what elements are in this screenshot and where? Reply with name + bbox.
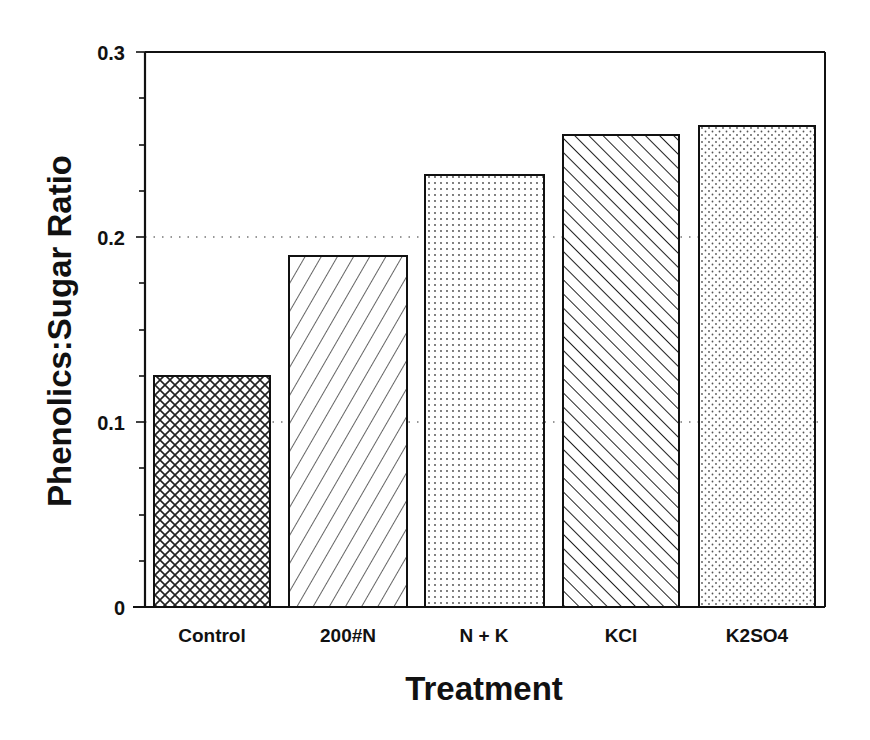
x-label-n-plus-k: N + K xyxy=(459,625,508,646)
y-tick-0-2: 0.2 xyxy=(97,227,125,249)
bar-200n xyxy=(289,256,407,607)
x-label-control: Control xyxy=(178,625,246,646)
x-label-k2so4: K2SO4 xyxy=(726,625,789,646)
bar-control xyxy=(154,376,270,607)
y-tick-labels: 0 0.1 0.2 0.3 xyxy=(97,42,125,619)
y-ticks xyxy=(136,52,145,561)
y-axis-title: Phenolics:Sugar Ratio xyxy=(41,155,78,507)
x-axis-title: Treatment xyxy=(405,670,563,707)
x-label-200n: 200#N xyxy=(320,625,376,646)
y-tick-0: 0 xyxy=(114,597,125,619)
bar-kcl xyxy=(563,135,679,607)
y-tick-0-3: 0.3 xyxy=(97,42,125,64)
bar-k2so4 xyxy=(699,126,815,607)
bar-n-plus-k xyxy=(425,175,544,607)
x-label-kcl: KCl xyxy=(605,625,638,646)
bar-chart: 0 0.1 0.2 0.3 Control 200#N N + K KCl K2… xyxy=(0,0,870,740)
y-tick-0-1: 0.1 xyxy=(97,412,125,434)
bars xyxy=(154,126,815,607)
x-category-labels: Control 200#N N + K KCl K2SO4 xyxy=(178,625,788,646)
